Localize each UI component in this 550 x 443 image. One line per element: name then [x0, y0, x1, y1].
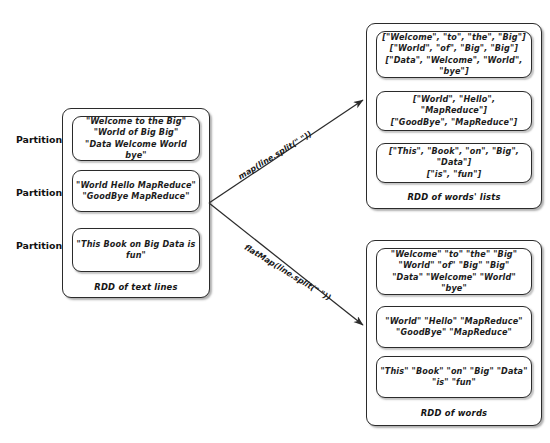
arrow-flatmap	[209, 203, 363, 325]
rdd-transformation-diagram: Partition 0 Partition 1 Partition 2 "Wel…	[0, 0, 550, 443]
transformation-arrows	[0, 0, 550, 443]
